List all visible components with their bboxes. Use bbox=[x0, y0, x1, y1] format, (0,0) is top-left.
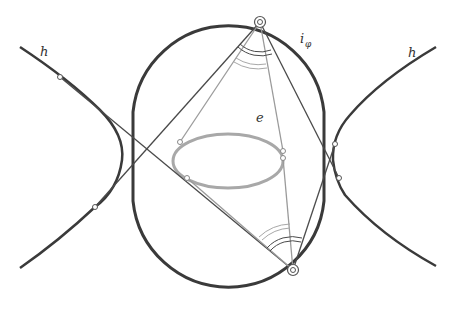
point-hyperbola-left-upper bbox=[58, 75, 63, 80]
point-ellipse-right-upper bbox=[281, 149, 286, 154]
ellipse-tangent-bottom-left bbox=[187, 178, 293, 270]
angle-arc-top-light-2 bbox=[234, 62, 267, 69]
label-isoptic-subscript: φ bbox=[305, 39, 312, 49]
angle-arc-bottom-light bbox=[262, 228, 290, 240]
label-hyperbola-left: h bbox=[40, 44, 48, 59]
angle-arc-bottom-dark bbox=[270, 241, 301, 251]
vertex-top-inner bbox=[258, 20, 263, 25]
point-ellipse-left-upper bbox=[178, 140, 183, 145]
point-hyperbola-left-lower bbox=[93, 205, 98, 210]
hyperbola-left-branch bbox=[20, 47, 122, 268]
angle-arc-bottom-light-2 bbox=[259, 224, 290, 237]
tangent-line-top-left bbox=[95, 22, 260, 207]
ellipse-tangent-top-left bbox=[180, 22, 260, 142]
label-ellipse: e bbox=[256, 110, 264, 125]
tangent-line-bottom-right bbox=[293, 144, 335, 270]
point-hyperbola-right-upper bbox=[333, 142, 338, 147]
ellipse-tangent-bottom-right bbox=[283, 158, 293, 270]
angle-arc-top-light bbox=[236, 58, 266, 65]
diagram-canvas: h h e i φ bbox=[0, 0, 456, 311]
tangent-line-bottom-left bbox=[60, 77, 293, 270]
label-hyperbola-right: h bbox=[408, 45, 416, 60]
point-hyperbola-right-lower bbox=[337, 176, 342, 181]
hyperbola-right-branch bbox=[333, 47, 436, 266]
point-ellipse-left-lower bbox=[185, 176, 190, 181]
vertex-bottom-inner bbox=[291, 268, 296, 273]
point-ellipse-right-lower bbox=[281, 156, 286, 161]
label-isoptic: i bbox=[300, 31, 304, 46]
isoptic-curve bbox=[133, 26, 324, 287]
